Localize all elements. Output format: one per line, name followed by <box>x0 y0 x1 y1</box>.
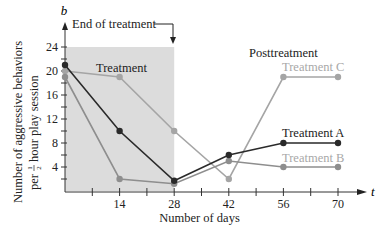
x-tick-label: 70 <box>332 197 344 211</box>
arrow-down-icon <box>170 37 176 44</box>
posttreatment-label: Posttreatment <box>249 46 318 60</box>
x-tick-label: 56 <box>277 197 289 211</box>
svg-text:1: 1 <box>26 166 34 170</box>
treatment-region-label: Treatment <box>96 61 147 75</box>
data-point <box>226 158 232 164</box>
series-label: Treatment C <box>282 60 344 74</box>
data-point <box>62 62 68 68</box>
svg-text:hour play session: hour play session <box>27 74 41 162</box>
x-tick-label: 14 <box>114 197 126 211</box>
data-point <box>280 74 286 80</box>
series-label: Treatment B <box>282 151 344 165</box>
chart: bt14284256704812162024Number of daysNumb… <box>0 0 380 238</box>
data-point <box>171 128 177 134</box>
x-tick-label: 42 <box>223 197 235 211</box>
y-axis-title: Number of aggressive behaviorsper12hour … <box>11 41 43 203</box>
data-point <box>335 140 341 146</box>
data-point <box>280 140 286 146</box>
end-of-treatment-label: End of treatment <box>72 17 157 31</box>
data-point <box>335 74 341 80</box>
y-tick-label: 12 <box>46 112 58 126</box>
x-axis-variable: t <box>371 184 375 199</box>
data-point <box>62 74 68 80</box>
svg-text:Number of aggressive behaviors: Number of aggressive behaviors <box>11 41 25 203</box>
y-axis-variable: b <box>61 3 68 18</box>
y-tick-label: 4 <box>52 160 58 174</box>
y-tick-label: 24 <box>46 40 58 54</box>
data-point <box>171 178 177 184</box>
svg-text:2: 2 <box>35 166 43 170</box>
y-tick-label: 20 <box>46 64 58 78</box>
series-label: Treatment A <box>282 126 344 140</box>
y-tick-label: 16 <box>46 88 58 102</box>
y-tick-label: 8 <box>52 136 58 150</box>
svg-text:per: per <box>27 173 41 190</box>
x-axis-title: Number of days <box>159 211 240 225</box>
data-point <box>116 176 122 182</box>
data-point <box>226 176 232 182</box>
data-point <box>116 128 122 134</box>
data-point <box>226 152 232 158</box>
x-tick-label: 28 <box>168 197 180 211</box>
